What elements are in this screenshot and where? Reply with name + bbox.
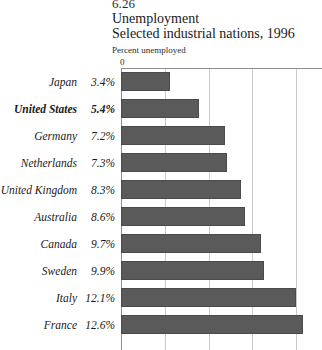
category-label: Canada: [41, 238, 77, 250]
bar-row: United States5.4%: [0, 95, 322, 122]
bar: [121, 288, 296, 307]
category-value-label: 8.6%: [81, 211, 115, 223]
category-value-label: 5.4%: [81, 103, 115, 115]
category-value-label: 7.3%: [81, 157, 115, 169]
figure-number: 6.26: [112, 0, 320, 11]
category-label: United Kingdom: [1, 184, 77, 196]
category-label: United States: [14, 103, 77, 115]
chart-title: Unemployment: [112, 11, 320, 26]
bar: [121, 180, 241, 199]
category-label: Netherlands: [21, 157, 77, 169]
bar-row-label-group: Italy12.1%: [0, 284, 115, 311]
bar-row-label-group: France12.6%: [0, 311, 115, 338]
bar-row-label-group: Netherlands7.3%: [0, 149, 115, 176]
bar-row-label-group: Australia8.6%: [0, 203, 115, 230]
category-value-label: 9.7%: [81, 238, 115, 250]
bar-row-label-group: United Kingdom8.3%: [0, 176, 115, 203]
chart-heading: 6.26 Unemployment Selected industrial na…: [112, 0, 320, 56]
bar-row-label-group: Canada9.7%: [0, 230, 115, 257]
x-axis-tick-zero: 0: [120, 58, 125, 67]
bar-row: Japan3.4%: [0, 68, 322, 95]
bar-row: Netherlands7.3%: [0, 149, 322, 176]
bar: [121, 207, 245, 226]
bar-row: United Kingdom8.3%: [0, 176, 322, 203]
category-value-label: 12.6%: [81, 319, 115, 331]
category-value-label: 3.4%: [81, 76, 115, 88]
category-label: Sweden: [42, 265, 77, 277]
bar: [121, 315, 303, 334]
bar-row: Canada9.7%: [0, 230, 322, 257]
category-value-label: 7.2%: [81, 130, 115, 142]
bar-row: France12.6%: [0, 311, 322, 338]
bar-row: Italy12.1%: [0, 284, 322, 311]
chart-subtitle: Selected industrial nations, 1996: [112, 26, 320, 41]
bar: [121, 234, 261, 253]
bar-row: Australia8.6%: [0, 203, 322, 230]
bar-row-label-group: Sweden9.9%: [0, 257, 115, 284]
category-label: Germany: [34, 130, 77, 142]
bar: [121, 261, 264, 280]
bar: [121, 72, 170, 91]
category-value-label: 12.1%: [81, 292, 115, 304]
bar-row-label-group: United States5.4%: [0, 95, 115, 122]
bar: [121, 153, 227, 172]
category-label: France: [44, 319, 77, 331]
bar-row-label-group: Japan3.4%: [0, 68, 115, 95]
bar-row: Sweden9.9%: [0, 257, 322, 284]
bar-row: Germany7.2%: [0, 122, 322, 149]
category-value-label: 9.9%: [81, 265, 115, 277]
category-value-label: 8.3%: [81, 184, 115, 196]
category-label: Australia: [34, 211, 77, 223]
bar: [121, 126, 225, 145]
axis-caption: Percent unemployed: [112, 44, 320, 56]
figure-unemployment-bar-chart: 6.26 Unemployment Selected industrial na…: [0, 0, 322, 350]
bar: [121, 99, 199, 118]
bar-rows: Japan3.4%United States5.4%Germany7.2%Net…: [0, 68, 322, 338]
bar-row-label-group: Germany7.2%: [0, 122, 115, 149]
category-label: Japan: [49, 76, 77, 88]
category-label: Italy: [56, 292, 77, 304]
